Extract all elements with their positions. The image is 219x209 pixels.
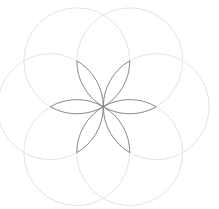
flower-diagram xyxy=(0,0,219,209)
rosette-petals xyxy=(50,61,156,153)
construction-circles xyxy=(0,8,209,206)
